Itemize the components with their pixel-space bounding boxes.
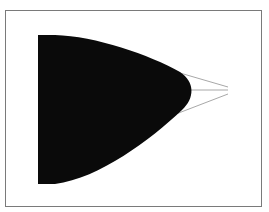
diagram-canvas [0, 0, 269, 212]
bullet-shape [38, 35, 192, 184]
